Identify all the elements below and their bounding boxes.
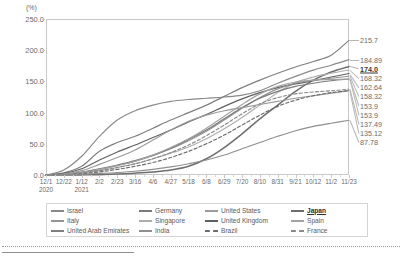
series-end-value-label: 153.9 [360,110,378,119]
x-axis-minor-tick-mark [180,175,181,177]
x-axis-tick-label: 12/1 [40,178,52,185]
legend-color-swatch [291,220,304,222]
x-axis-tick-label: 8/10 [254,178,266,185]
end-label-leader-line [350,66,359,69]
legend-item-label: United States [221,208,261,215]
legend-color-swatch [139,210,152,212]
y-axis-tick-mark [42,50,45,51]
y-axis-tick-label: 100.0 [2,108,44,117]
x-axis-tick-label: 4/27 [165,178,177,185]
legend-item[interactable]: United States [205,208,291,215]
y-axis-tick-label: 200.0 [2,46,44,55]
y-axis-tick-mark [42,113,45,114]
legend-color-swatch [139,230,152,232]
x-axis-minor-tick-mark [322,175,323,177]
x-axis-tick-label: 4/6 [148,178,157,185]
x-axis-minor-tick-mark [198,175,199,177]
series-end-value-label: 162.64 [360,83,382,92]
legend-item-label: Germany [155,208,182,215]
series-line [46,40,349,175]
legend-item-label: Israel [67,208,83,215]
legend-item[interactable]: United Arab Emirates [51,228,139,235]
chart-lines [46,19,349,175]
y-axis-tick-mark [42,19,45,20]
x-axis-minor-tick-mark [304,175,305,177]
x-axis-tick-label: 7/20 [236,178,248,185]
y-axis-labels: 250.0200.0150.0100.050.00.0 [0,12,44,182]
x-axis-minor-tick-mark [162,175,163,177]
series-line [46,79,349,175]
x-axis-tick-label: 11/2 [325,178,337,185]
series-end-value-labels: 215.7184.89174.0168.32162.64158.32153.91… [350,19,402,179]
legend-item[interactable]: Italy [51,218,139,225]
x-axis-minor-tick-mark [287,175,288,177]
x-axis-minor-tick-mark [215,175,216,177]
legend-item[interactable]: France [291,228,357,235]
legend-item-label: United Kingdom [221,218,268,225]
x-axis-minor-tick-mark [233,175,234,177]
x-axis-tick-label: 2/23 [111,178,123,185]
legend-item[interactable]: Israel [51,208,139,215]
x-axis-minor-tick-mark [144,175,145,177]
x-axis-minor-tick-mark [91,175,92,177]
x-axis-tick-label: 10/12 [305,178,321,185]
legend-color-swatch [291,230,304,232]
y-axis-tick-label: 150.0 [2,77,44,86]
x-axis-tick-label: 8/31 [271,178,283,185]
legend-color-swatch [205,220,218,222]
legend-color-swatch [291,210,304,212]
legend-color-swatch [51,230,64,232]
series-line [46,79,349,175]
y-axis-tick-label: 50.0 [2,139,44,148]
legend-item-label: France [307,228,328,235]
series-line [46,76,349,175]
legend-item[interactable]: Germany [139,208,205,215]
y-axis-tick-mark [42,144,45,145]
series-end-value-label: 168.32 [360,74,382,83]
x-axis-tick-label: 12/22 [56,178,72,185]
legend-color-swatch [51,210,64,212]
x-axis-tick-label: 1/12 [75,178,87,185]
legend-item[interactable]: United Kingdom [205,218,291,225]
x-axis-year-label: 2020 [39,186,53,193]
legend-item[interactable]: Singapore [139,218,205,225]
x-axis-minor-tick-mark [73,175,74,177]
x-axis-labels: 12/112/221/122/22/233/164/64/275/186/86/… [0,178,402,202]
legend-color-swatch [139,220,152,222]
series-end-value-label: 184.89 [360,55,382,64]
legend-item-label: Japan [307,208,326,215]
x-axis-minor-tick-mark [126,175,127,177]
series-line [46,74,349,175]
legend-item-label: Brazil [221,228,238,235]
legend-item[interactable]: India [139,228,205,235]
x-axis-tick-label: 6/8 [202,178,211,185]
y-axis-tick-label: 250.0 [2,15,44,24]
legend-color-swatch [205,230,218,232]
legend-item-label: India [155,228,169,235]
x-axis-tick-label: 6/29 [218,178,230,185]
legend-color-swatch [205,210,218,212]
series-end-value-label: 87.78 [360,138,378,147]
legend-item-label: United Arab Emirates [67,228,129,235]
series-end-value-label: 153.9 [360,101,378,110]
x-axis-tick-label: 3/16 [129,178,141,185]
x-axis-minor-tick-mark [340,175,341,177]
x-axis-minor-tick-mark [251,175,252,177]
legend-item[interactable]: Spain [291,218,357,225]
chart-legend: IsraelGermanyUnited StatesJapanItalySing… [46,203,368,237]
x-axis-year-label: 2021 [75,186,89,193]
y-axis-unit-label: (%) [26,4,37,11]
x-axis-tick-label: 2/2 [95,178,104,185]
series-end-value-label: 137.49 [360,120,382,129]
x-axis-minor-tick-mark [269,175,270,177]
x-axis-tick-label: 9/21 [289,178,301,185]
decorative-dotted-rule [2,246,400,247]
series-end-value-label: 215.7 [360,36,378,45]
decorative-solid-rule [2,252,134,253]
legend-item[interactable]: Brazil [205,228,291,235]
chart-page: (%) 250.0200.0150.0100.050.00.0 12/112/2… [0,0,402,259]
series-end-value-label: 135.12 [360,129,382,138]
series-end-value-label: 158.32 [360,92,382,101]
legend-item[interactable]: Japan [291,208,357,215]
legend-color-swatch [51,220,64,222]
